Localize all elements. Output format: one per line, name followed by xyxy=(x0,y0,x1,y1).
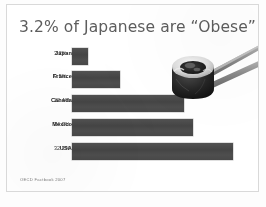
screenshot-root: 3.2% of Japanese are “Obese” Japan 3.2% … xyxy=(0,0,266,207)
chart-row: France 9.5% xyxy=(7,70,259,93)
presentation-slide: 3.2% of Japanese are “Obese” Japan 3.2% … xyxy=(6,4,259,192)
bar-france xyxy=(72,71,120,88)
value-label: 9.5% xyxy=(54,73,72,79)
bar-track xyxy=(72,47,252,70)
value-label: 24.2% xyxy=(54,121,72,127)
value-label: 3.2% xyxy=(54,50,72,56)
page-title: 3.2% of Japanese are “Obese” xyxy=(19,18,256,36)
value-label: 22.4% xyxy=(54,97,72,103)
bar-chart: Japan 3.2% France 9.5% Canada 22.4% xyxy=(7,47,259,172)
chart-row: Japan 3.2% xyxy=(7,47,259,70)
bar-canada xyxy=(72,95,184,112)
bar-track xyxy=(72,94,252,117)
source-caption: OECD Factbook 2007 xyxy=(20,177,65,182)
bar-track xyxy=(72,142,252,165)
bar-usa xyxy=(72,143,233,160)
chart-row: USA 32.2% xyxy=(7,142,259,165)
bar-mexico xyxy=(72,119,193,136)
bar-japan xyxy=(72,48,88,65)
chart-row: Canada 22.4% xyxy=(7,94,259,117)
bar-track xyxy=(72,70,252,93)
value-label: 32.2% xyxy=(54,145,72,151)
bar-track xyxy=(72,118,252,141)
chart-row: Mexico 24.2% xyxy=(7,118,259,141)
